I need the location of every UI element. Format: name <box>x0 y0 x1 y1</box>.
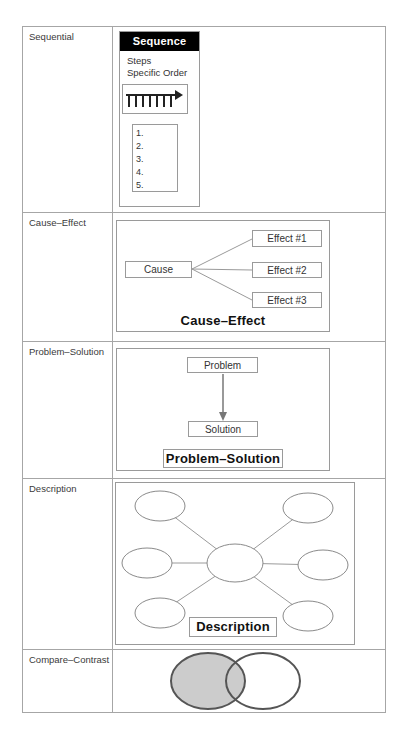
cause-effect-diagram: Cause Effect #1 Effect #2 Effect #3 Caus… <box>116 220 330 332</box>
sequence-note-specific-order: Specific Order <box>127 67 199 79</box>
row-content-cause-effect: Cause Effect #1 Effect #2 Effect #3 Caus… <box>113 213 385 341</box>
row-description: Description Descrip <box>23 479 385 650</box>
cause-node: Cause <box>125 261 192 278</box>
venn-diagram <box>113 650 386 712</box>
row-label-cause-effect: Cause–Effect <box>23 213 113 341</box>
sequence-card-title: Sequence <box>120 32 199 51</box>
list-item: 5. <box>136 179 177 192</box>
list-item: 4. <box>136 166 177 179</box>
effect-3-node: Effect #3 <box>252 292 322 308</box>
problem-solution-diagram: Problem Solution Problem–Solution <box>116 348 330 471</box>
row-sequential: Sequential Sequence Steps Specific Order <box>23 27 385 213</box>
row-label-sequential: Sequential <box>23 27 113 212</box>
sequence-note-steps: Steps <box>127 55 199 67</box>
text-structures-table: Sequential Sequence Steps Specific Order <box>22 26 386 713</box>
row-label-description: Description <box>23 479 113 649</box>
timeline-arrow-icon <box>123 85 187 113</box>
row-label-compare-contrast: Compare–Contrast <box>23 650 113 712</box>
row-content-sequential: Sequence Steps Specific Order <box>113 27 385 212</box>
list-item: 3. <box>136 153 177 166</box>
description-title: Description <box>189 617 277 637</box>
list-item: 1. <box>136 127 177 140</box>
row-content-problem-solution: Problem Solution Problem–Solution <box>113 342 385 478</box>
sequence-numbered-list: 1. 2. 3. 4. 5. <box>132 124 178 192</box>
solution-node: Solution <box>188 421 258 437</box>
row-cause-effect: Cause–Effect Cause Effect #1 Effect #2 E… <box>23 213 385 342</box>
sequence-card-notes: Steps Specific Order <box>127 55 199 79</box>
cause-effect-title: Cause–Effect <box>117 313 329 328</box>
problem-node: Problem <box>187 357 258 373</box>
row-label-problem-solution: Problem–Solution <box>23 342 113 478</box>
description-diagram: Description <box>115 482 355 645</box>
problem-solution-title: Problem–Solution <box>163 449 283 468</box>
row-problem-solution: Problem–Solution Problem Solution Proble… <box>23 342 385 479</box>
row-content-compare-contrast <box>113 650 385 712</box>
sequence-timeline-box <box>122 84 188 114</box>
list-item: 2. <box>136 140 177 153</box>
effect-2-node: Effect #2 <box>252 262 322 278</box>
effect-1-node: Effect #1 <box>252 230 322 247</box>
venn-left-circle <box>171 653 245 709</box>
row-compare-contrast: Compare–Contrast <box>23 650 385 712</box>
sequence-card: Sequence Steps Specific Order <box>119 31 200 207</box>
row-content-description: Description <box>113 479 385 649</box>
